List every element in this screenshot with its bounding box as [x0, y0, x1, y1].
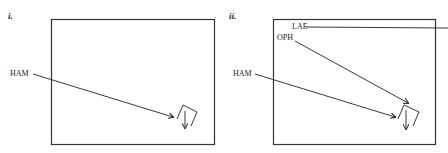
panel-label: i. [8, 11, 13, 21]
panel-i: i. HAM [8, 11, 215, 145]
annotation-ham: HAM [10, 69, 29, 78]
frame [52, 20, 215, 145]
annotation-lae: LAE [292, 22, 308, 31]
ham-arrow [33, 74, 173, 117]
rotated-box-icon [177, 105, 197, 128]
panel-ii: ii. LAE OPH HAM [229, 11, 448, 145]
annotation-ham: HAM [233, 69, 252, 78]
oph-arrow [295, 41, 408, 103]
frame [274, 20, 436, 145]
diagram-canvas: i. HAM ii. LAE OPH HAM [0, 0, 448, 153]
ham-arrow [255, 74, 395, 117]
lae-line [306, 27, 448, 28]
rotated-box-icon [398, 105, 419, 129]
annotation-oph: OPH [277, 33, 293, 42]
panel-label: ii. [229, 11, 236, 21]
